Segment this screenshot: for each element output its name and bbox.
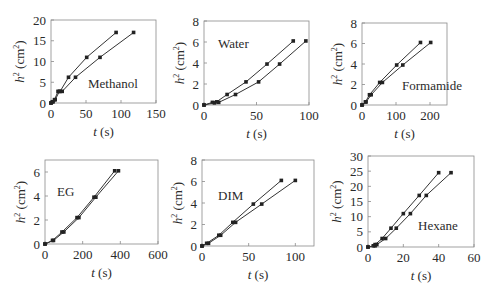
x-tick-label: 20 bbox=[397, 250, 410, 265]
x-tick-label: 600 bbox=[148, 247, 168, 262]
x-tick-label: 150 bbox=[146, 106, 166, 121]
solvent-label: Methanol bbox=[88, 76, 138, 91]
y-axis-label: h2 (cm2) bbox=[170, 182, 185, 224]
x-tick-label: 50 bbox=[242, 249, 255, 264]
x-tick-label: 0 bbox=[199, 249, 206, 264]
data-point-marker bbox=[304, 39, 308, 43]
data-point-marker bbox=[364, 100, 368, 104]
x-axis-label: t (s) bbox=[246, 126, 267, 141]
data-point-marker bbox=[113, 169, 117, 173]
x-tick-label: 100 bbox=[299, 108, 319, 123]
data-point-marker bbox=[402, 212, 406, 216]
x-tick-label: 60 bbox=[468, 250, 481, 265]
solvent-label: Hexane bbox=[418, 218, 458, 233]
x-tick-label: 400 bbox=[111, 247, 131, 262]
y-axis-label: h2 (cm2) bbox=[172, 42, 187, 84]
solvent-label: Formamide bbox=[402, 78, 462, 93]
plot-frame bbox=[202, 160, 314, 246]
data-point-marker bbox=[132, 31, 136, 35]
data-point-marker bbox=[117, 169, 121, 173]
x-tick-label: 200 bbox=[420, 108, 440, 123]
data-point-marker bbox=[67, 75, 71, 79]
data-point-marker bbox=[94, 195, 98, 199]
data-point-marker bbox=[234, 93, 238, 97]
y-tick-label: 30 bbox=[350, 149, 363, 164]
data-point-marker bbox=[52, 239, 56, 243]
data-point-marker bbox=[381, 81, 385, 85]
y-axis-label: h2 (cm2) bbox=[12, 40, 27, 82]
data-point-marker bbox=[384, 237, 388, 241]
data-point-marker bbox=[234, 221, 238, 225]
data-point-marker bbox=[425, 194, 429, 198]
y-tick-label: 20 bbox=[350, 179, 363, 194]
data-point-marker bbox=[60, 90, 64, 94]
x-tick-label: 50 bbox=[250, 108, 263, 123]
x-axis-label: t (s) bbox=[93, 124, 114, 139]
data-point-marker bbox=[375, 243, 379, 247]
y-tick-label: 5 bbox=[357, 224, 364, 239]
data-series-2 bbox=[368, 173, 451, 247]
data-point-marker bbox=[369, 93, 373, 97]
y-tick-label: 25 bbox=[350, 164, 363, 179]
y-axis-label: h2 (cm2) bbox=[329, 180, 344, 222]
data-point-marker bbox=[280, 179, 284, 183]
x-tick-label: 40 bbox=[432, 250, 445, 265]
data-point-marker bbox=[85, 56, 89, 60]
y-tick-label: 4 bbox=[193, 56, 200, 71]
y-tick-label: 0 bbox=[351, 98, 358, 113]
x-tick-label: 100 bbox=[111, 106, 131, 121]
x-tick-label: 50 bbox=[80, 106, 93, 121]
data-point-marker bbox=[366, 245, 370, 249]
x-tick-label: 100 bbox=[286, 249, 306, 264]
data-point-marker bbox=[114, 31, 118, 35]
data-point-marker bbox=[77, 216, 81, 220]
x-tick-label: 0 bbox=[201, 108, 208, 123]
y-tick-label: 4 bbox=[191, 196, 198, 211]
y-tick-label: 0 bbox=[357, 240, 364, 255]
data-series-1 bbox=[368, 173, 439, 247]
data-point-marker bbox=[74, 75, 78, 79]
data-point-marker bbox=[53, 98, 57, 102]
figure-panel-grid: 05010015005101520t (s)h2 (cm2)Methanol 0… bbox=[0, 0, 487, 296]
x-tick-label: 0 bbox=[365, 250, 372, 265]
y-tick-label: 15 bbox=[33, 33, 46, 48]
solvent-label: Water bbox=[218, 36, 249, 51]
data-point-marker bbox=[395, 63, 399, 67]
x-tick-label: 0 bbox=[359, 108, 366, 123]
data-point-marker bbox=[417, 194, 421, 198]
y-tick-label: 0 bbox=[34, 237, 41, 252]
panel-dim: 05010002468t (s)h2 (cm2)DIM bbox=[170, 153, 314, 283]
y-tick-label: 0 bbox=[191, 239, 198, 254]
x-axis-label: t (s) bbox=[394, 126, 415, 141]
y-axis-label: h2 (cm2) bbox=[330, 43, 345, 85]
data-point-marker bbox=[200, 244, 204, 248]
y-tick-label: 15 bbox=[350, 194, 363, 209]
data-point-marker bbox=[419, 41, 423, 45]
y-tick-label: 6 bbox=[351, 36, 358, 51]
data-point-marker bbox=[437, 171, 441, 175]
data-series-2 bbox=[202, 180, 295, 246]
y-tick-label: 8 bbox=[193, 14, 200, 29]
x-axis-label: t (s) bbox=[411, 268, 432, 283]
x-tick-label: 0 bbox=[48, 106, 55, 121]
y-tick-label: 0 bbox=[193, 98, 200, 113]
panel-water: 05010002468t (s)h2 (cm2)Water bbox=[172, 14, 319, 142]
data-series-2 bbox=[45, 171, 119, 244]
y-tick-label: 2 bbox=[351, 77, 358, 92]
data-point-marker bbox=[213, 101, 217, 105]
y-tick-label: 8 bbox=[191, 153, 198, 168]
data-point-marker bbox=[360, 103, 364, 107]
data-point-marker bbox=[207, 242, 211, 246]
data-point-marker bbox=[294, 179, 298, 183]
data-point-marker bbox=[252, 202, 256, 206]
panel-hexane: 0204060051015202530t (s)h2 (cm2)Hexane bbox=[329, 149, 481, 284]
data-point-marker bbox=[389, 226, 393, 230]
data-point-marker bbox=[217, 101, 221, 105]
data-point-marker bbox=[219, 233, 223, 237]
y-tick-label: 6 bbox=[193, 35, 200, 50]
data-point-marker bbox=[409, 212, 413, 216]
x-tick-label: 200 bbox=[73, 247, 93, 262]
panel-eg: 02004006000246t (s)h2 (cm2)EG bbox=[13, 160, 168, 280]
y-tick-label: 4 bbox=[34, 189, 41, 204]
y-tick-label: 6 bbox=[34, 165, 41, 180]
